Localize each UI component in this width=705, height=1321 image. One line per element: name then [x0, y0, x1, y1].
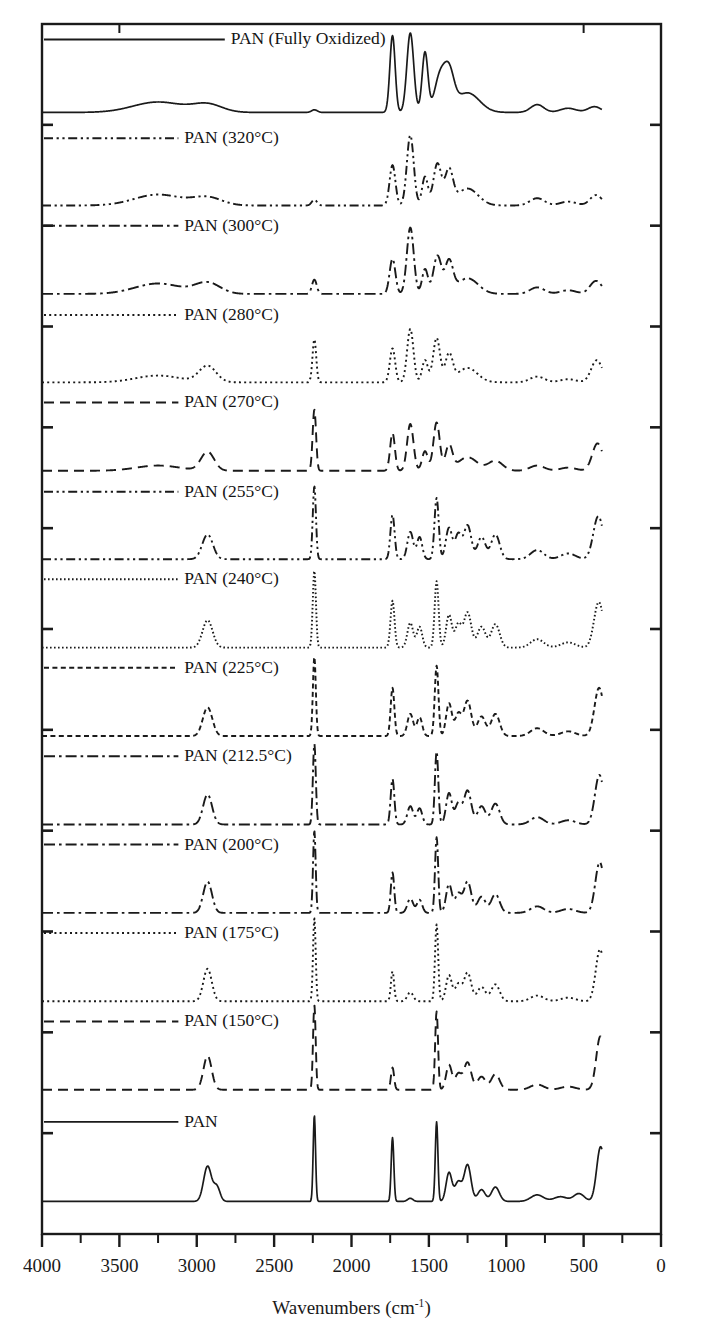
legend-label: PAN (270°C) [184, 391, 279, 411]
legend-label: PAN (320°C) [184, 127, 279, 147]
legend-label: PAN (300°C) [184, 215, 279, 235]
x-tick-label: 3000 [178, 1255, 216, 1276]
legend-label: PAN (175°C) [184, 922, 279, 942]
x-tick-label: 1000 [487, 1255, 525, 1276]
legend-label: PAN (Fully Oxidized) [231, 28, 386, 48]
x-tick-label: 1500 [410, 1255, 448, 1276]
legend-label: PAN (255°C) [184, 481, 279, 501]
legend-label: PAN [184, 1111, 218, 1131]
x-tick-label: 3500 [100, 1255, 138, 1276]
x-axis-title: Wavenumbers (cm-1) [272, 1297, 430, 1319]
x-tick-label: 0 [656, 1255, 666, 1276]
legend-label: PAN (225°C) [184, 657, 279, 677]
x-tick-label: 4000 [23, 1255, 61, 1276]
legend-label: PAN (150°C) [184, 1010, 279, 1030]
legend-label: PAN (280°C) [184, 304, 279, 324]
x-tick-label: 2500 [255, 1255, 293, 1276]
legend-label: PAN (240°C) [184, 568, 279, 588]
figure-root: PAN (Fully Oxidized)PAN (320°C)PAN (300°… [0, 0, 705, 1321]
legend-label: PAN (200°C) [184, 834, 279, 854]
x-tick-label: 500 [569, 1255, 598, 1276]
ftir-spectra-chart: PAN (Fully Oxidized)PAN (320°C)PAN (300°… [0, 0, 705, 1321]
legend-label: PAN (212.5°C) [184, 745, 292, 765]
x-tick-label: 2000 [333, 1255, 371, 1276]
